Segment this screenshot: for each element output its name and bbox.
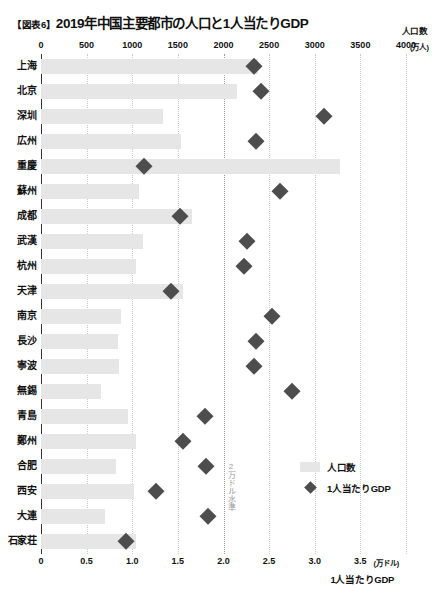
chart-row [41, 404, 406, 428]
gdp-per-capita-marker [248, 333, 264, 349]
population-bar [41, 59, 258, 74]
bottom-axis-tick: 3.5 [354, 556, 367, 566]
chart-row [41, 129, 406, 153]
chart-row [41, 329, 406, 353]
top-axis-tick: 500 [79, 40, 94, 50]
gdp-per-capita-marker [239, 233, 255, 249]
top-axis-tick: 3500 [350, 40, 370, 50]
top-axis-tick: 2000 [213, 40, 233, 50]
category-label: 深圳 [17, 104, 36, 128]
category-label: 成都 [17, 204, 36, 228]
category-label: 石家荘 [8, 529, 37, 553]
chart-row [41, 279, 406, 303]
gdp-per-capita-marker [200, 508, 216, 524]
top-axis-tick: 2500 [259, 40, 279, 50]
category-label: 長沙 [17, 329, 36, 353]
gdp-per-capita-marker [175, 433, 191, 449]
gdp-per-capita-marker [197, 408, 213, 424]
bottom-axis-unit: (万ドル) [373, 557, 399, 568]
category-label: 北京 [17, 79, 36, 103]
page-title: 【図表6】 2019年中国主要都市の人口と1人当たりGDP [12, 12, 428, 32]
gdp-per-capita-marker [272, 183, 288, 199]
category-label: 重慶 [17, 154, 36, 178]
chart-row [41, 304, 406, 328]
chart-row [41, 354, 406, 378]
category-axis: 上海北京深圳広州重慶蘇州成都武漢杭州天津南京長沙寧波無錫青島鄭州合肥西安大連石家… [0, 54, 40, 554]
category-label: 大連 [17, 504, 36, 528]
population-bar [41, 184, 139, 199]
gdp-per-capita-marker [264, 308, 280, 324]
title-text: 2019年中国主要都市の人口と1人当たりGDP [56, 12, 309, 32]
category-label: 蘇州 [17, 179, 36, 203]
chart-row [41, 179, 406, 203]
chart-row [41, 529, 406, 553]
population-bar [41, 334, 118, 349]
gdp-per-capita-marker [245, 358, 261, 374]
legend-item: 1人当たりGDP [300, 479, 390, 496]
chart-row [41, 104, 406, 128]
top-axis: 05001000150020002500300035004000(万人) [0, 40, 436, 54]
gdp-per-capita-marker [248, 133, 264, 149]
bottom-axis-tick: 1.0 [126, 556, 139, 566]
chart-row [41, 54, 406, 78]
population-bar [41, 434, 136, 449]
category-label: 南京 [17, 304, 36, 328]
population-bar [41, 259, 136, 274]
legend-bar-swatch [300, 462, 320, 472]
population-bar [41, 84, 237, 99]
legend: 人口数1人当たりGDP [300, 458, 390, 500]
top-axis-tick: 0 [38, 40, 43, 50]
top-axis-unit: (万人) [410, 41, 429, 52]
chart-row [41, 504, 406, 528]
legend-item: 人口数 [300, 458, 390, 475]
population-bar [41, 384, 101, 399]
population-bar [41, 134, 181, 149]
top-axis-tick: 1000 [122, 40, 142, 50]
bottom-axis-tick: 3.0 [308, 556, 321, 566]
gdp-per-capita-marker [198, 458, 214, 474]
chart-row [41, 229, 406, 253]
category-label: 無錫 [17, 379, 36, 403]
category-label: 上海 [17, 54, 36, 78]
chart-row [41, 79, 406, 103]
population-bar [41, 484, 134, 499]
population-bar [41, 159, 340, 174]
population-bar [41, 309, 121, 324]
top-axis-tick: 1500 [168, 40, 188, 50]
category-label: 武漢 [17, 229, 36, 253]
population-bar [41, 359, 119, 374]
threshold-annotation: 2万ドル水準 [227, 462, 235, 511]
bottom-axis-tick: 0.5 [80, 556, 93, 566]
category-label: 寧波 [17, 354, 36, 378]
gdp-per-capita-marker [284, 383, 300, 399]
population-bar [41, 409, 128, 424]
chart-row [41, 379, 406, 403]
top-axis-tick: 3000 [305, 40, 325, 50]
category-label: 鄭州 [17, 429, 36, 453]
bottom-axis-tick: 2.0 [217, 556, 230, 566]
bottom-axis-tick: 0 [38, 556, 43, 566]
gdp-per-capita-marker [253, 83, 269, 99]
population-bar [41, 459, 116, 474]
figure-tag: 【図表6】 [12, 17, 56, 31]
gridline [406, 54, 407, 554]
population-bar [41, 234, 143, 249]
bottom-axis-series-label: 1人当たりGDP [331, 572, 394, 586]
category-label: 天津 [17, 279, 36, 303]
chart-page: 【図表6】 2019年中国主要都市の人口と1人当たりGDP 人口数 050010… [0, 0, 436, 598]
top-axis-series-label: 人口数 [402, 24, 428, 36]
bottom-axis-tick: 2.5 [263, 556, 276, 566]
chart-row [41, 204, 406, 228]
category-label: 杭州 [17, 254, 36, 278]
chart-row [41, 154, 406, 178]
gdp-per-capita-marker [235, 258, 251, 274]
population-bar [41, 509, 105, 524]
category-label: 広州 [17, 129, 36, 153]
bottom-axis: 00.51.01.52.02.53.03.5(万ドル) [0, 556, 436, 570]
legend-label: 人口数 [327, 460, 356, 474]
gdp-per-capita-marker [316, 108, 332, 124]
population-bar [41, 109, 163, 124]
category-label: 青島 [17, 404, 36, 428]
category-label: 西安 [17, 479, 36, 503]
bottom-axis-tick: 1.5 [172, 556, 185, 566]
